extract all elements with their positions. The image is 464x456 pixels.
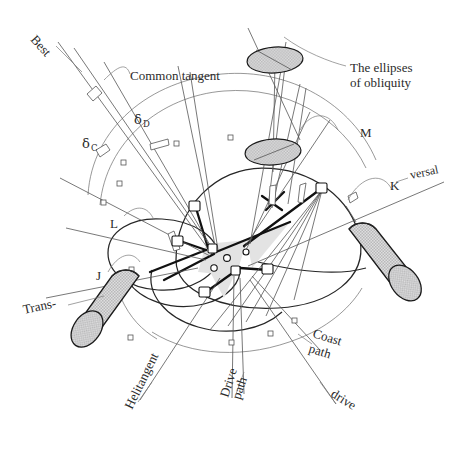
background-arcs (88, 73, 376, 352)
outer-arc-lower-left (121, 298, 157, 339)
leader-m (300, 116, 338, 130)
label-l: L (110, 216, 118, 231)
joint-far-right (316, 183, 327, 193)
left-cylinder (64, 270, 139, 353)
label-j: J (96, 268, 101, 283)
diagram-canvas: Best Common tangent δ C δ D The ellipses… (0, 0, 464, 456)
tick-delta-d (150, 139, 169, 150)
tick-m-2 (269, 185, 276, 205)
arc-node-2 (121, 160, 126, 165)
tick-common-tangent (87, 86, 102, 101)
upper-obliquity-ellipse (246, 45, 304, 75)
label-common-tangent: Common tangent (130, 68, 220, 83)
label-delta-d: δ D (134, 112, 150, 129)
joint-lower (199, 287, 210, 297)
label-helitangent: Helitangent (121, 350, 161, 411)
delta-d-subscript: D (143, 119, 150, 129)
label-m: M (360, 125, 372, 140)
outer-arc-upper (88, 73, 376, 195)
arc-node-3 (101, 200, 106, 205)
label-versal: versal (409, 162, 441, 182)
arc-node-10 (292, 318, 297, 323)
arc-node-1 (117, 181, 122, 186)
label-delta-c: δ C (82, 136, 98, 153)
arc-node-7 (229, 340, 234, 345)
fan-right-4 (228, 190, 322, 326)
label-ellipses-line1: The ellipses (350, 60, 412, 75)
joint-right (262, 264, 273, 274)
joint-center-lower (231, 266, 240, 275)
joint-left (172, 236, 183, 246)
ray-k (248, 182, 444, 266)
joint-pin-b (211, 265, 217, 271)
label-trans: Trans- (22, 295, 58, 317)
arc-node-5 (228, 135, 233, 140)
right-sweep-edge (258, 262, 366, 272)
ray-coast (252, 276, 320, 350)
arc-node-8 (268, 331, 273, 336)
joint-center (208, 244, 217, 253)
delta-c-subscript: C (91, 143, 98, 153)
label-k: K (390, 178, 400, 193)
joint-pin-c (243, 249, 249, 255)
arc-node-4 (174, 141, 179, 146)
label-drive: drive (328, 386, 359, 413)
joint-pin-a (224, 255, 231, 262)
leader-best (56, 46, 82, 72)
tick-delta-c (96, 144, 110, 157)
label-ellipses-line2: of obliquity (350, 75, 412, 90)
delta-c-symbol: δ (82, 136, 90, 151)
right-cylinder-stem (346, 206, 356, 222)
technical-diagram: Best Common tangent δ C δ D The ellipses… (0, 0, 464, 456)
right-cylinder (346, 206, 428, 307)
label-best: Best (28, 32, 55, 60)
ray-delta-c (60, 178, 210, 256)
tick-markers (87, 53, 358, 251)
joint-upper (189, 201, 200, 211)
arc-node-9 (128, 335, 133, 340)
ray-common-tangent (104, 62, 214, 252)
delta-d-symbol: δ (134, 112, 142, 127)
ray-left-low (66, 228, 206, 260)
text-labels: Best Common tangent δ C δ D The ellipses… (22, 32, 441, 413)
